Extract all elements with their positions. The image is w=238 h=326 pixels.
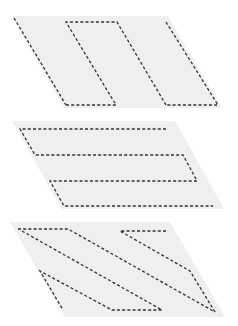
figure-horizontal-strips [12,121,224,209]
diagram-canvas [0,0,238,326]
parallelogram-shape [10,222,225,317]
figure-vertical-strips [12,16,222,108]
figure-diagonal-strips [10,222,225,317]
parallelogram-shape [12,121,224,209]
